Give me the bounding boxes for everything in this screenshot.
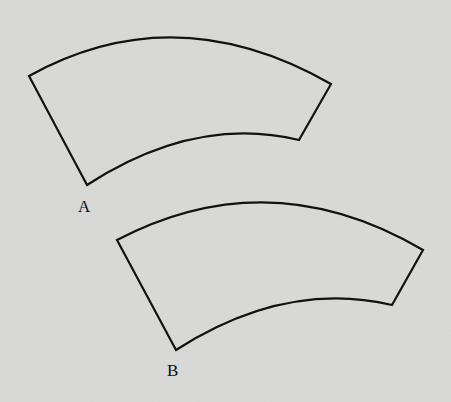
- figure-b-label: B: [167, 361, 178, 380]
- paper-texture: [0, 0, 451, 402]
- diagram-canvas: A B: [0, 0, 451, 402]
- figure-a-label: A: [78, 197, 91, 216]
